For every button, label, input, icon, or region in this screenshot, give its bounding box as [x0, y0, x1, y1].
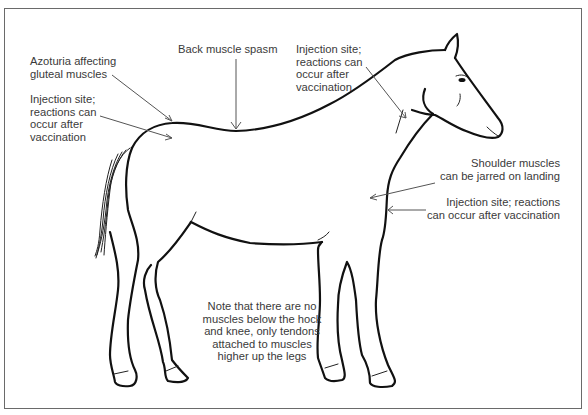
- horse-belly: [191, 222, 322, 244]
- label-shoulder: Shoulder muscles can be jarred on landin…: [440, 157, 560, 182]
- arrow-injection-rump: [100, 116, 172, 140]
- label-back-spasm: Back muscle spasm: [178, 43, 277, 56]
- hoof-line-4: [372, 371, 387, 376]
- horse-jaw: [423, 89, 433, 114]
- horse-throat-chest: [356, 114, 433, 387]
- horse-hind-leg-outer: [110, 148, 138, 386]
- hoof-line-2: [166, 366, 178, 371]
- nostril-mouth: [487, 127, 498, 136]
- arrow-injection-neck: [366, 67, 406, 118]
- hoof-line-1: [114, 371, 128, 374]
- elbow-line: [318, 232, 329, 240]
- hoof-line-3: [325, 364, 338, 368]
- horse-ear: [445, 34, 458, 58]
- label-injection-rump: Injection site; reactions can occur afte…: [30, 93, 97, 143]
- horse-topline: [132, 50, 445, 148]
- horse-face: [412, 58, 503, 138]
- leader-lines: [100, 59, 435, 214]
- stifle-line: [191, 212, 196, 222]
- label-injection-neck: Injection site; reactions can occur afte…: [296, 43, 363, 93]
- arrow-back-spasm: [231, 59, 241, 129]
- label-note: Note that there are no muscles below the…: [182, 300, 342, 363]
- cheek-mark: [457, 94, 460, 106]
- arrow-azoturia: [112, 75, 172, 121]
- horse-eye: [459, 78, 466, 82]
- label-azoturia: Azoturia affecting gluteal muscles: [30, 55, 116, 80]
- label-injection-chest: Injection site; reactions can occur afte…: [410, 196, 560, 221]
